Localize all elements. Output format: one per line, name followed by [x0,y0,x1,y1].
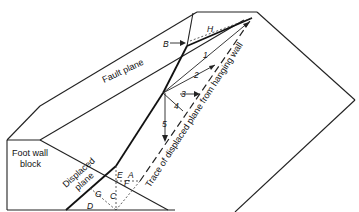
label-trace: Trace of displaced plane from hanging wa… [143,40,244,189]
displaced-plane-lines [66,18,252,210]
arrow-label-1: 1 [203,50,208,60]
point-b: B [163,39,169,49]
arrow-label-2: 2 [193,70,199,80]
label-foot-wall-2: block [20,159,42,169]
fault-displacement-diagram: Fault plane Foot wall block Displaced pl… [0,0,359,212]
arrow-label-4: 4 [174,101,179,111]
arrow-label-5: 5 [162,119,167,129]
point-g: G [95,189,102,199]
label-fault-plane: Fault plane [101,57,146,85]
point-d: D [87,201,93,211]
point-c: C [110,191,117,201]
point-e: E [117,170,123,180]
arrow-label-3: 3 [181,89,186,99]
slip-arrows [162,22,249,142]
label-foot-wall-1: Foot wall [12,148,48,158]
point-h: H [207,24,214,34]
point-f: F [124,178,130,188]
